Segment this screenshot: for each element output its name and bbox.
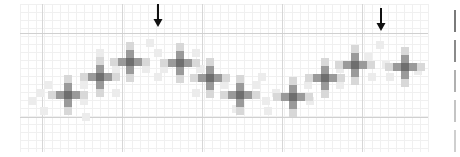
- minor-gridline: [252, 4, 253, 152]
- down-arrow-icon: [375, 8, 387, 32]
- minor-gridline: [44, 4, 45, 152]
- minor-gridline: [172, 4, 173, 152]
- cross-arm-cell: [56, 91, 64, 99]
- cross-arm-cell: [118, 58, 126, 66]
- minor-gridline: [268, 4, 269, 152]
- cross-outer-cell: [126, 42, 134, 50]
- faint-cell: [112, 89, 120, 97]
- cross-center-cell: [176, 59, 184, 67]
- cross-arm-cell: [393, 63, 401, 71]
- cross-arm-cell: [96, 65, 104, 73]
- cross-center-cell: [289, 93, 297, 101]
- minor-gridline: [76, 4, 77, 152]
- cross-center-cell: [351, 61, 359, 69]
- minor-gridline: [148, 4, 149, 152]
- faint-cell: [376, 41, 384, 49]
- cross-arm-cell: [409, 63, 417, 71]
- cross-arm-cell: [289, 85, 297, 93]
- cross-arm-cell: [289, 101, 297, 109]
- minor-gridline: [20, 44, 428, 45]
- cross-arm-cell: [176, 67, 184, 75]
- cross-outer-cell: [417, 63, 425, 71]
- minor-gridline: [124, 4, 125, 152]
- cross-outer-cell: [126, 74, 134, 82]
- faint-cell: [146, 39, 154, 47]
- cross-arm-cell: [96, 81, 104, 89]
- minor-gridline: [20, 124, 428, 125]
- cross-arm-cell: [401, 55, 409, 63]
- cross-outer-cell: [80, 73, 88, 81]
- cross-outer-cell: [222, 74, 230, 82]
- cross-arm-cell: [236, 83, 244, 91]
- cross-outer-cell: [160, 59, 168, 67]
- cross-outer-cell: [190, 74, 198, 82]
- cross-outer-cell: [289, 109, 297, 117]
- minor-gridline: [28, 4, 29, 152]
- cross-center-cell: [64, 91, 72, 99]
- minor-gridline: [188, 4, 189, 152]
- faint-cell: [142, 65, 150, 73]
- major-gridline: [122, 4, 123, 152]
- cross-arm-cell: [176, 51, 184, 59]
- faint-cell: [112, 65, 120, 73]
- cross-outer-cell: [96, 57, 104, 65]
- minor-gridline: [20, 132, 428, 133]
- cross-outer-cell: [64, 75, 72, 83]
- minor-gridline: [284, 4, 285, 152]
- cross-outer-cell: [351, 45, 359, 53]
- cross-outer-cell: [401, 79, 409, 87]
- cross-arm-cell: [126, 50, 134, 58]
- cross-outer-cell: [220, 91, 228, 99]
- faint-cell: [336, 81, 344, 89]
- cross-outer-cell: [385, 63, 393, 71]
- cross-outer-cell: [236, 107, 244, 115]
- cross-outer-cell: [80, 91, 88, 99]
- cross-arm-cell: [126, 66, 134, 74]
- minor-gridline: [20, 148, 428, 149]
- cross-center-cell: [401, 63, 409, 71]
- cross-arm-cell: [88, 73, 96, 81]
- down-arrow-icon: [152, 4, 164, 28]
- cross-arm-cell: [329, 74, 337, 82]
- minor-gridline: [420, 4, 421, 152]
- cross-arm-cell: [104, 73, 112, 81]
- cross-arm-cell: [321, 66, 329, 74]
- minor-gridline: [396, 4, 397, 152]
- minor-gridline: [20, 28, 428, 29]
- cross-outer-cell: [321, 58, 329, 66]
- scale-bar: [454, 40, 457, 62]
- minor-gridline: [300, 4, 301, 152]
- cross-outer-cell: [252, 91, 260, 99]
- faint-cell: [264, 107, 272, 115]
- minor-gridline: [36, 4, 37, 152]
- minor-gridline: [20, 140, 428, 141]
- scale-bar: [454, 130, 457, 152]
- cross-outer-cell: [176, 43, 184, 51]
- cross-outer-cell: [112, 73, 120, 81]
- faint-cell: [80, 81, 88, 89]
- minor-gridline: [140, 4, 141, 152]
- cross-outer-cell: [337, 74, 345, 82]
- faint-cell: [28, 97, 36, 105]
- minor-gridline: [20, 20, 428, 21]
- cross-arm-cell: [244, 91, 252, 99]
- cross-arm-cell: [198, 74, 206, 82]
- minor-gridline: [52, 4, 53, 152]
- faint-cell: [262, 97, 270, 105]
- faint-cell: [192, 89, 200, 97]
- scale-bar: [454, 70, 457, 92]
- cross-outer-cell: [206, 58, 214, 66]
- cross-outer-cell: [351, 77, 359, 85]
- cross-outer-cell: [401, 47, 409, 55]
- minor-gridline: [20, 4, 21, 152]
- cross-arm-cell: [184, 59, 192, 67]
- faint-cell: [44, 81, 52, 89]
- scale-bar: [454, 100, 457, 122]
- cross-outer-cell: [236, 75, 244, 83]
- cross-outer-cell: [176, 75, 184, 83]
- cross-outer-cell: [305, 93, 313, 101]
- cross-arm-cell: [168, 59, 176, 67]
- cross-arm-cell: [206, 82, 214, 90]
- cross-arm-cell: [297, 93, 305, 101]
- cross-arm-cell: [359, 61, 367, 69]
